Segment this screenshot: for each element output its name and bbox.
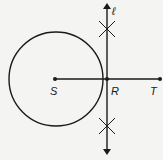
label-point-t: T [150, 86, 157, 97]
diagram-canvas: ℓ S R T [0, 0, 163, 160]
point-t [158, 77, 162, 81]
point-r [105, 77, 109, 81]
point-s [53, 77, 57, 81]
label-point-s: S [50, 86, 57, 97]
label-point-r: R [111, 86, 119, 97]
label-line-l: ℓ [112, 6, 116, 17]
construction-figure [0, 0, 163, 160]
